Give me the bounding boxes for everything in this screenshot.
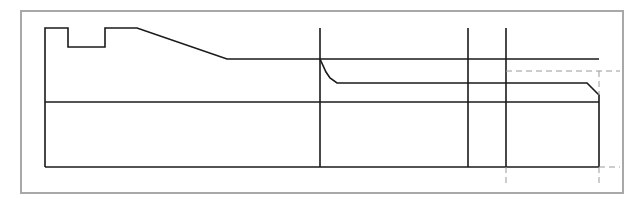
inner-profile bbox=[320, 59, 599, 167]
shaft-outline bbox=[45, 28, 599, 167]
section-lines bbox=[320, 28, 506, 167]
technical-drawing bbox=[0, 0, 639, 199]
drawing-canvas bbox=[0, 0, 639, 199]
dashed-lines bbox=[506, 71, 620, 186]
horizontal-lines bbox=[45, 102, 599, 167]
